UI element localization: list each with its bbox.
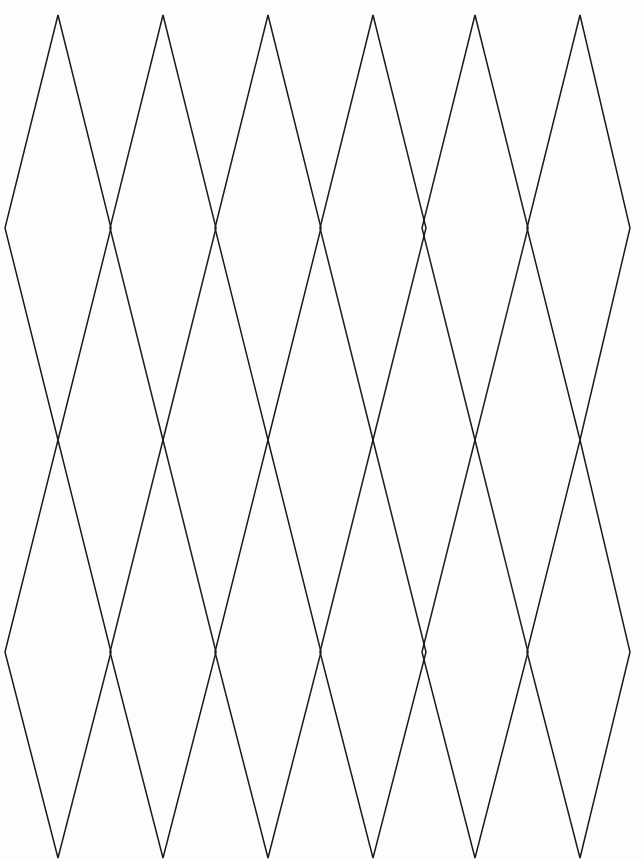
rhombus-shape <box>320 15 426 440</box>
rhombus-shape <box>5 440 111 858</box>
pattern-canvas: Line drawing of a tessellated lattice of… <box>0 0 641 861</box>
rhombus-shape <box>422 15 528 440</box>
rhombus-group <box>5 15 630 858</box>
rhombus-tessellation-svg: Line drawing of a tessellated lattice of… <box>0 0 641 861</box>
rhombus-shape <box>215 440 321 858</box>
rhombus-shape <box>110 440 216 858</box>
rhombus-shape <box>215 15 321 440</box>
rhombus-shape <box>527 15 630 440</box>
rhombus-shape <box>422 440 528 858</box>
rhombus-shape <box>110 15 216 440</box>
rhombus-shape <box>527 440 630 858</box>
rhombus-shape <box>320 440 426 858</box>
rhombus-shape <box>5 15 111 440</box>
